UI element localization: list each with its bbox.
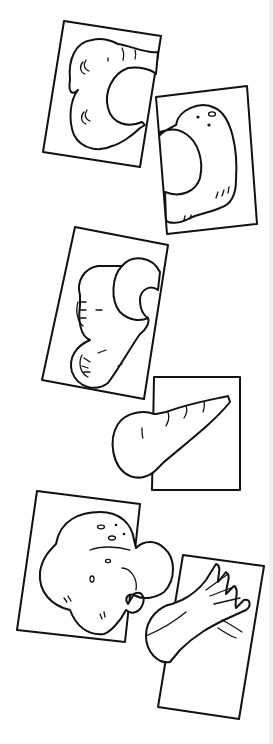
card-carrots-cut: [42, 227, 168, 399]
vegetable-puzzle-illustration: [0, 0, 273, 744]
card-potato: [156, 86, 257, 234]
card-parsnips: [43, 21, 161, 167]
